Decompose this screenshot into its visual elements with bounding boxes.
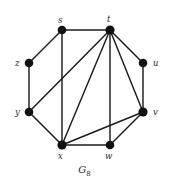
- graph-edge-x-y: [29, 112, 62, 145]
- caption-subscript: 8: [86, 170, 90, 178]
- vertex-label-w: w: [105, 152, 112, 161]
- vertex-label-u: u: [153, 59, 158, 68]
- graph-figure: stuvwxyz G8: [0, 0, 169, 187]
- graph-edge-t-y: [29, 30, 110, 112]
- graph-edge-s-z: [29, 30, 62, 63]
- graph-vertex-y: [25, 108, 34, 117]
- graph-vertex-v: [138, 107, 147, 116]
- graph-edge-t-v: [110, 30, 143, 112]
- vertex-label-z: z: [15, 59, 19, 68]
- vertex-label-t: t: [107, 15, 110, 24]
- figure-caption: G8: [0, 164, 169, 178]
- graph-vertex-w: [106, 141, 115, 150]
- vertex-label-x: x: [58, 152, 63, 161]
- graph-vertex-x: [57, 140, 66, 149]
- vertex-label-s: s: [58, 16, 62, 25]
- edges-group: [29, 30, 143, 145]
- graph-vertex-t: [105, 25, 114, 34]
- vertex-label-v: v: [153, 108, 158, 117]
- graph-edge-t-u: [110, 30, 143, 63]
- graph-vertex-s: [58, 26, 67, 35]
- graph-edge-v-w: [110, 112, 143, 145]
- graph-vertex-u: [139, 59, 148, 68]
- graph-vertex-z: [25, 59, 34, 68]
- graph-canvas: [0, 0, 169, 187]
- vertex-label-y: y: [15, 108, 20, 117]
